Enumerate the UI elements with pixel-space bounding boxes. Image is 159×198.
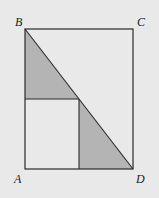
- label-a: A: [14, 173, 21, 185]
- label-d: D: [136, 173, 145, 185]
- geometry-figure: [0, 0, 159, 198]
- label-b: B: [15, 16, 22, 28]
- diagram-canvas: B C A D: [0, 0, 159, 198]
- label-c: C: [137, 16, 145, 28]
